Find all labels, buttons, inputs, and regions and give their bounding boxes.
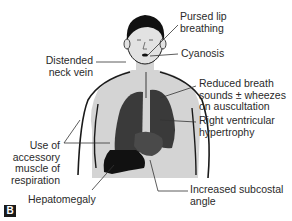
label-hepatomegaly: Hepatomegaly <box>28 194 96 206</box>
label-right-ventricular-hypertrophy: Right ventricular hypertrophy <box>199 115 275 138</box>
copd-clinical-signs-figure: Pursed lip breathing Cyanosis Distended … <box>0 0 292 221</box>
label-pursed-lip-breathing: Pursed lip breathing <box>180 11 227 34</box>
label-increased-subcostal-angle: Increased subcostal angle <box>190 184 283 207</box>
mouth <box>142 53 148 56</box>
panel-label-badge: B <box>4 205 16 217</box>
label-accessory-muscle: Use of accessory muscle of respiration <box>4 140 60 186</box>
label-cyanosis: Cyanosis <box>181 48 224 60</box>
label-reduced-breath-sounds: Reduced breath sounds ± wheezes on auscu… <box>199 78 286 113</box>
label-distended-neck-vein: Distended neck vein <box>40 55 93 78</box>
